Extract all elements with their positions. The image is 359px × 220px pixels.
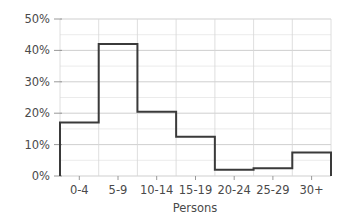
x-tick-labels: 0-4 5-9 10-14 15-19 20-24 25-29 30+ — [70, 183, 324, 197]
ytick-label-30: 30% — [24, 75, 50, 89]
xtick-label-1: 5-9 — [109, 183, 128, 197]
ytick-label-20: 20% — [24, 106, 50, 120]
xtick-label-4: 20-24 — [217, 183, 250, 197]
ytick-label-0: 0% — [32, 169, 50, 183]
xtick-label-6: 30+ — [299, 183, 323, 197]
ytick-label-50: 50% — [24, 12, 50, 26]
ytick-label-40: 40% — [24, 43, 50, 57]
y-tick-labels: 0% 10% 20% 30% 40% 50% — [24, 12, 50, 183]
x-axis-title: Persons — [173, 201, 218, 215]
xtick-label-0: 0-4 — [70, 183, 89, 197]
chart-canvas: 0% 10% 20% 30% 40% 50% 0-4 5-9 10-14 15-… — [0, 0, 359, 220]
histogram-chart: 0% 10% 20% 30% 40% 50% 0-4 5-9 10-14 15-… — [0, 0, 359, 220]
xtick-label-2: 10-14 — [140, 183, 173, 197]
x-tick-marks — [79, 176, 311, 180]
xtick-label-3: 15-19 — [179, 183, 212, 197]
xtick-label-5: 25-29 — [256, 183, 289, 197]
ytick-label-10: 10% — [24, 138, 50, 152]
